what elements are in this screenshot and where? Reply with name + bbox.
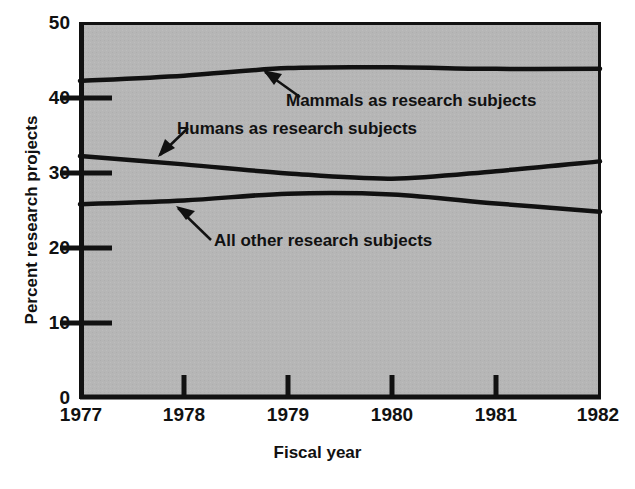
x-tick-label-1980: 1980 [347, 404, 437, 426]
y-tick-label-50: 50 [30, 13, 70, 32]
x-tick-label-1981: 1981 [451, 404, 541, 426]
x-axis-title: Fiscal year [0, 443, 635, 463]
x-tick-label-1982: 1982 [553, 404, 635, 426]
annotation-label-humans: Humans as research subjects [177, 120, 417, 137]
annotation-label-mammals: Mammals as research subjects [286, 92, 536, 109]
x-tick-label-1978: 1978 [139, 404, 229, 426]
chart-figure: 50 40 30 20 10 0 1977 1978 1979 1980 198… [0, 0, 635, 489]
x-tick-label-1977: 1977 [36, 404, 126, 426]
x-tick-label-1979: 1979 [243, 404, 333, 426]
annotation-label-all-other: All other research subjects [214, 232, 432, 249]
y-axis-title: Percent research projects [22, 100, 42, 340]
